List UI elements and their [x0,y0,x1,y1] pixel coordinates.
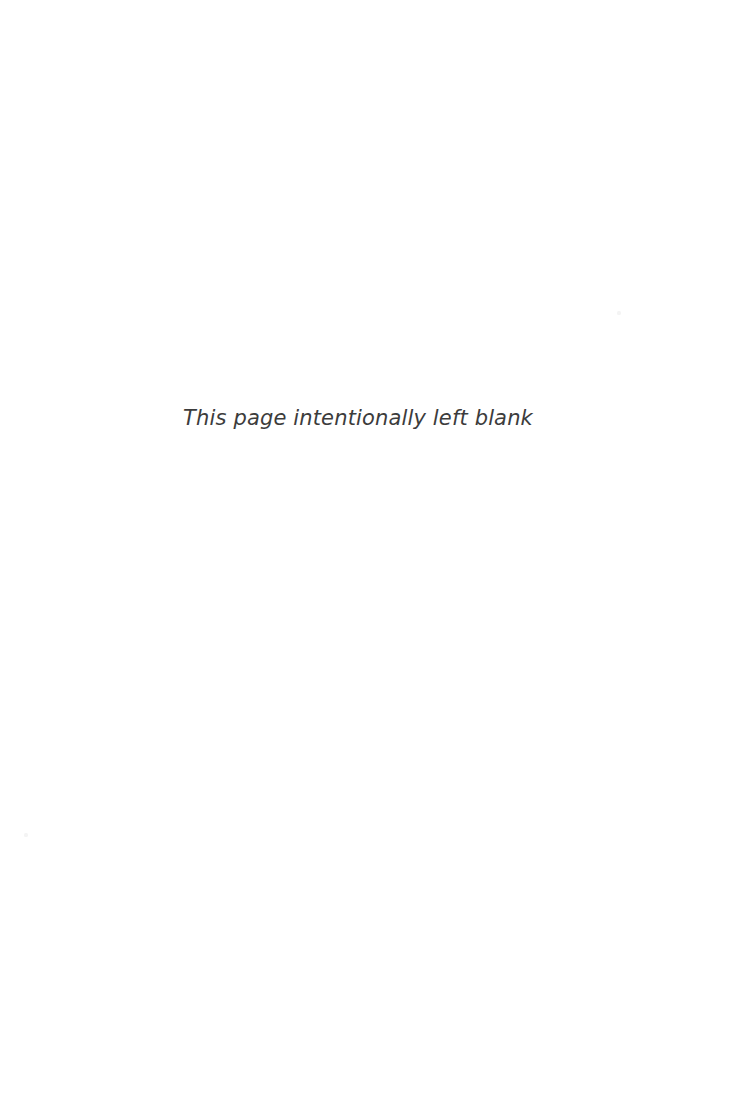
scan-speck-upper-right-icon [617,311,621,315]
intentionally-blank-notice: This page intentionally left blank [0,406,716,430]
scan-speck-lower-left-icon [24,833,28,837]
scanned-page: This page intentionally left blank [0,0,743,1118]
